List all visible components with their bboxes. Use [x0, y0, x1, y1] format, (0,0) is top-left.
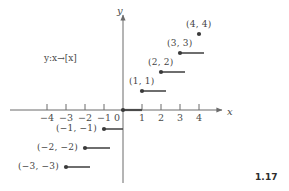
point-label-minus3-minus3: (−3, −3) [18, 161, 59, 171]
endpoint-neg3 [64, 165, 68, 169]
step-endpoints [64, 32, 201, 169]
function-annotation: y:x→[x] [44, 53, 77, 63]
figure-container: y:x→[x] y x 0 −4 −3 −2 −1 1 2 3 4 (4, 4)… [0, 0, 289, 191]
x-tick-label-4: 4 [196, 112, 202, 123]
x-tick-label-2: 2 [158, 112, 164, 123]
x-tick-label-1: 1 [139, 112, 145, 123]
figure-number: 1.17 [255, 172, 278, 182]
point-label-2-2: (2, 2) [148, 57, 173, 67]
endpoint-neg1 [102, 127, 106, 131]
x-tick-label-minus3: −3 [59, 112, 73, 123]
point-label-4-4: (4, 4) [186, 19, 211, 29]
point-label-minus2-minus2: (−2, −2) [37, 142, 78, 152]
point-label-minus1-minus1: (−1, −1) [56, 123, 97, 133]
point-label-1-1: (1, 1) [129, 76, 154, 86]
origin-label: 0 [114, 112, 120, 123]
x-tick-label-minus4: −4 [40, 112, 54, 123]
endpoint-zero [121, 108, 125, 112]
endpoint-neg2 [83, 146, 87, 150]
x-tick-label-minus2: −2 [78, 112, 92, 123]
x-axis-label: x [227, 106, 233, 117]
endpoint-pos2 [159, 70, 163, 74]
endpoint-pos3 [178, 51, 182, 55]
point-label-3-3: (3, 3) [167, 38, 192, 48]
x-tick-label-3: 3 [177, 112, 183, 123]
endpoint-pos1 [140, 89, 144, 93]
x-tick-label-minus1: −1 [97, 112, 111, 123]
endpoint-pos4 [197, 32, 201, 36]
y-axis-label: y [117, 5, 123, 16]
